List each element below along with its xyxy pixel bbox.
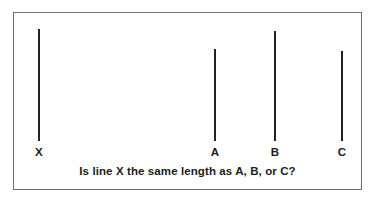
stimulus-card: X A B C Is line X the same length as A, … <box>13 12 362 190</box>
line-label-x: X <box>31 147 47 158</box>
line-x[interactable] <box>38 29 40 141</box>
line-a[interactable] <box>214 49 216 141</box>
line-c[interactable] <box>341 51 343 141</box>
line-b[interactable] <box>274 31 276 141</box>
line-label-a: A <box>207 147 223 158</box>
question-caption: Is line X the same length as A, B, or C? <box>14 165 361 177</box>
line-label-c: C <box>334 147 350 158</box>
line-label-b: B <box>267 147 283 158</box>
